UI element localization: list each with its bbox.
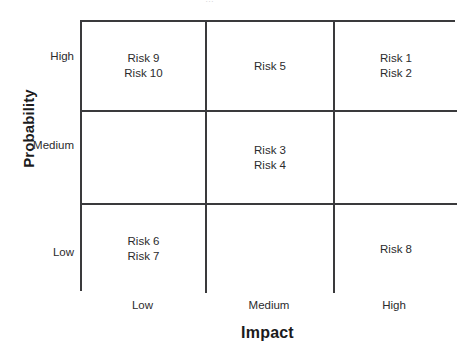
x-tick-medium: Medium bbox=[205, 298, 333, 314]
risk-item: Risk 1 bbox=[380, 51, 412, 66]
risk-item: Risk 7 bbox=[128, 249, 160, 264]
risk-item: Risk 2 bbox=[380, 66, 412, 81]
risk-item: Risk 3 bbox=[254, 143, 286, 158]
matrix-cell-low-medium bbox=[207, 205, 335, 293]
y-tick-high: High bbox=[50, 50, 74, 63]
risk-item: Risk 5 bbox=[254, 59, 286, 74]
x-axis-tick-labels: Low Medium High bbox=[80, 298, 455, 314]
matrix-cell-medium-medium: Risk 3 Risk 4 bbox=[207, 112, 335, 205]
y-tick-low: Low bbox=[53, 246, 74, 259]
risk-item: Risk 6 bbox=[128, 234, 160, 249]
matrix-cell-high-high: Risk 1 Risk 2 bbox=[335, 22, 457, 112]
risk-item: Risk 10 bbox=[124, 66, 162, 81]
matrix-cell-high-medium: Risk 5 bbox=[207, 22, 335, 112]
y-tick-medium: Medium bbox=[33, 139, 74, 152]
x-axis-title: Impact bbox=[80, 324, 455, 342]
y-axis-tick-labels: High Medium Low bbox=[0, 0, 78, 363]
x-tick-high: High bbox=[333, 298, 455, 314]
matrix-cell-medium-low bbox=[82, 112, 207, 205]
matrix-cell-medium-high bbox=[335, 112, 457, 205]
risk-item: Risk 8 bbox=[380, 242, 412, 257]
matrix-cell-low-low: Risk 6 Risk 7 bbox=[82, 205, 207, 293]
matrix-cell-low-high: Risk 8 bbox=[335, 205, 457, 293]
risk-item: Risk 4 bbox=[254, 158, 286, 173]
risk-matrix-figure: … Probability High Medium Low Risk 9 Ris… bbox=[0, 0, 463, 363]
matrix-cell-high-low: Risk 9 Risk 10 bbox=[82, 22, 207, 112]
risk-matrix-grid: Risk 9 Risk 10 Risk 5 Risk 1 Risk 2 Risk… bbox=[80, 20, 455, 291]
clipped-header-text: … bbox=[205, 0, 463, 4]
x-tick-low: Low bbox=[80, 298, 205, 314]
risk-item: Risk 9 bbox=[128, 51, 160, 66]
